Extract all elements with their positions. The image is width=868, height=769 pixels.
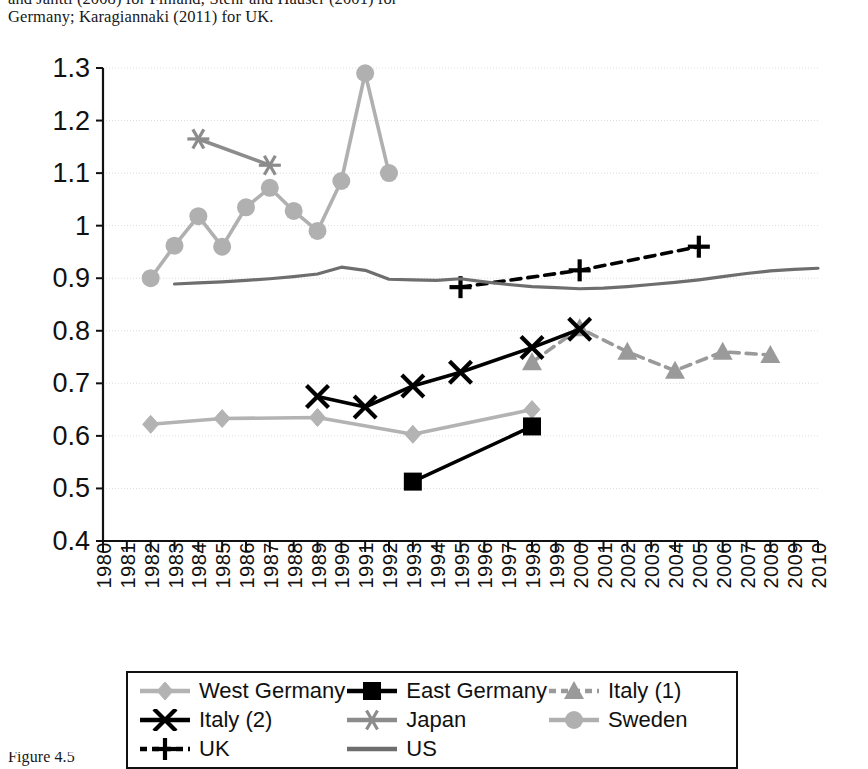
caption-line-2: Germany; Karagiannaki (2011) for UK. <box>8 7 274 27</box>
series-italy-1 <box>522 318 780 379</box>
legend-swatch-sweden <box>547 709 601 731</box>
x-axis-tick-label: 1999 <box>546 542 569 589</box>
legend-label-japan: Japan <box>406 707 466 733</box>
chart-figure: 1.31.21.110.90.80.70.60.50.4 19801981198… <box>0 34 868 768</box>
legend-swatch-italy-1 <box>547 680 601 702</box>
series-west-germany <box>143 401 540 444</box>
x-axis-tick-label: 2003 <box>641 542 664 589</box>
gridlines <box>103 68 818 541</box>
y-axis-tick-label: 0.5 <box>28 475 90 502</box>
data-series <box>142 64 818 490</box>
y-axis-tick-label: 0.8 <box>28 317 90 344</box>
y-axis-tick-label: 0.7 <box>28 370 90 397</box>
legend-swatch-japan <box>345 709 399 731</box>
legend-label-italy-1: Italy (1) <box>608 678 681 704</box>
legend-label-italy-2: Italy (2) <box>199 707 272 733</box>
bottom-caption-block: Figure 4.5 <box>0 752 868 768</box>
x-axis-tick-label: 1981 <box>117 542 140 589</box>
y-axis-tick-label: 1 <box>28 212 90 239</box>
x-axis-tick-label: 2007 <box>737 542 760 589</box>
legend-item-west-germany[interactable]: West Germany <box>138 678 345 704</box>
x-axis-tick-label: 1983 <box>165 542 188 589</box>
series-sweden <box>142 64 398 287</box>
x-axis-tick-label: 1997 <box>498 542 521 589</box>
legend-swatch-west-germany <box>138 680 192 702</box>
x-axis-tick-label: 1995 <box>451 542 474 589</box>
x-axis-tick-label: 1986 <box>236 542 259 589</box>
x-axis-tick-label: 1980 <box>93 542 116 589</box>
x-axis-tick-label: 2008 <box>760 542 783 589</box>
x-axis-tick-label: 2009 <box>784 542 807 589</box>
x-axis-tick-label: 2001 <box>594 542 617 589</box>
axis-lines <box>103 68 818 541</box>
series-east-germany <box>404 417 541 490</box>
x-axis-tick-label: 2005 <box>689 542 712 589</box>
legend-item-east-germany[interactable]: East Germany <box>345 678 547 704</box>
legend-label-east-germany: East Germany <box>406 678 547 704</box>
y-axis-tick-label: 1.3 <box>28 55 90 82</box>
series-japan <box>187 129 281 174</box>
x-axis-tick-label: 1987 <box>260 542 283 589</box>
y-axis-tick-label: 0.6 <box>28 422 90 449</box>
top-caption-block: and Jantti (2008) for Finland; Stehr and… <box>0 0 868 34</box>
x-axis-labels: 1980198119821983198419851986198719881989… <box>0 542 868 662</box>
y-axis-tick-label: 0.9 <box>28 265 90 292</box>
x-axis-tick-label: 1998 <box>522 542 545 589</box>
x-axis-tick-label: 1982 <box>141 542 164 589</box>
legend-swatch-east-germany <box>345 680 399 702</box>
bottom-caption-line: Figure 4.5 <box>8 752 75 766</box>
x-axis-tick-label: 1988 <box>284 542 307 589</box>
x-axis-tick-label: 2000 <box>570 542 593 589</box>
x-axis-tick-label: 1991 <box>355 542 378 589</box>
y-axis-labels: 1.31.21.110.90.80.70.60.50.4 <box>22 34 90 594</box>
y-axis-tick-label: 1.2 <box>28 107 90 134</box>
y-axis-tick-label: 1.1 <box>28 160 90 187</box>
legend-item-italy-1[interactable]: Italy (1) <box>547 678 728 704</box>
x-axis-tick-label: 2006 <box>713 542 736 589</box>
x-axis-tick-label: 1996 <box>474 542 497 589</box>
x-axis-tick-label: 1994 <box>427 542 450 589</box>
x-axis-tick-label: 1992 <box>379 542 402 589</box>
legend-label-west-germany: West Germany <box>199 678 345 704</box>
x-axis-tick-label: 1989 <box>308 542 331 589</box>
legend-label-sweden: Sweden <box>608 707 688 733</box>
legend-swatch-italy-2 <box>138 709 192 731</box>
x-axis-tick-label: 2004 <box>665 542 688 589</box>
series-italy-2 <box>307 318 591 418</box>
x-axis-tick-label: 2002 <box>617 542 640 589</box>
x-axis-tick-label: 1984 <box>188 542 211 589</box>
legend-item-italy-2[interactable]: Italy (2) <box>138 707 345 733</box>
x-axis-tick-label: 1990 <box>331 542 354 589</box>
legend-item-japan[interactable]: Japan <box>345 707 547 733</box>
x-axis-tick-label: 2010 <box>808 542 831 589</box>
x-axis-tick-label: 1985 <box>212 542 235 589</box>
legend-item-sweden[interactable]: Sweden <box>547 707 728 733</box>
x-axis-tick-label: 1993 <box>403 542 426 589</box>
